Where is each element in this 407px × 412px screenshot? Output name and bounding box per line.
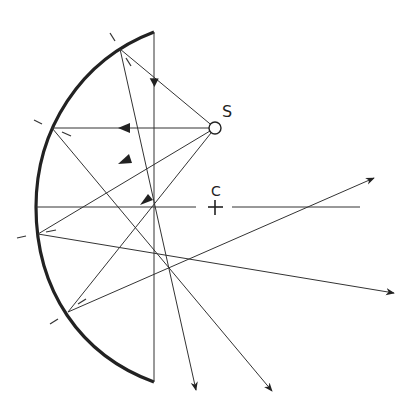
normal-ticks	[17, 33, 131, 324]
incident-rays	[38, 49, 215, 312]
source-point	[209, 122, 221, 134]
ray-diagram: C S	[0, 0, 407, 412]
center-label: C	[211, 183, 221, 199]
reflected-rays	[38, 49, 394, 391]
center-marker	[208, 200, 223, 215]
incident-arrowheads	[118, 78, 159, 205]
source-label: S	[222, 102, 232, 121]
